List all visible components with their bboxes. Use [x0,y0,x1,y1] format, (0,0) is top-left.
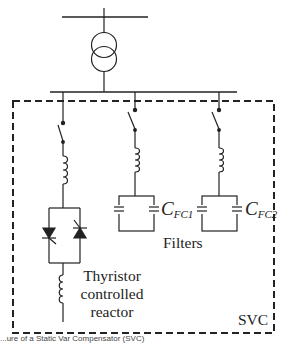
cfc2-label: CFC2 [245,198,277,220]
tcr-label: Thyristor controlled reactor [79,267,145,321]
switch-contact-icon [61,121,64,124]
cfc1-label: CFC1 [161,198,193,220]
filter-branch-1 [114,92,159,231]
inductor-icon [59,275,63,303]
transformer-icon [92,33,117,72]
switch-contact-icon [133,108,136,111]
filter-branch-2 [197,92,242,231]
inductor-icon [135,148,140,172]
switch-blade-icon [128,112,135,129]
filters-label: Filters [163,234,203,252]
svc-label: SVC [238,311,268,329]
inductor-icon [63,156,68,184]
switch-blade-icon [212,112,219,129]
switch-blade-icon [58,125,63,141]
switch-contact-icon [217,108,220,111]
inductor-icon [219,148,224,172]
figure-caption: ...ure of a Static Var Compensator (SVC) [0,334,144,343]
